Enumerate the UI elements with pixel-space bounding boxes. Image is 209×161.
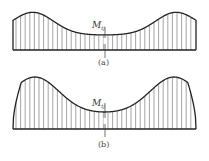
hatch-lines-a — [16, 13, 191, 50]
moment-label-a: Mtj — [91, 20, 105, 32]
panel-b: Mtj (b) — [13, 77, 196, 149]
moment-curve-a — [13, 12, 196, 50]
caption-b: (b) — [98, 140, 109, 149]
moment-distribution-diagram: Mtj (a) Mtj (b) — [0, 0, 209, 161]
caption-a: (a) — [98, 58, 109, 67]
moment-label-b: Mtj — [91, 98, 105, 110]
center-gap-b — [104, 118, 107, 124]
center-gap-a — [104, 38, 107, 44]
panel-a: Mtj (a) — [13, 12, 196, 67]
